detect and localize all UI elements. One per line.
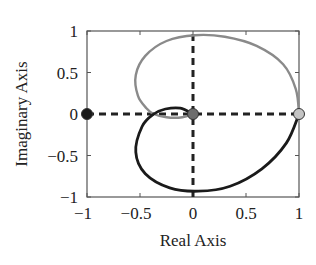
upper-locus-curve bbox=[135, 35, 299, 118]
x-tick-label: −0.5 bbox=[121, 204, 152, 223]
unit-point-marker bbox=[294, 109, 305, 120]
y-tick-label: 1 bbox=[70, 22, 79, 41]
x-tick-label: 0.5 bbox=[235, 204, 256, 223]
origin-point-marker bbox=[188, 109, 199, 120]
nyquist-chart: −1−0.500.51 10.50−0.5−1 Real Axis Imagin… bbox=[0, 0, 316, 265]
x-tick-label: 1 bbox=[295, 204, 304, 223]
y-tick-label: 0 bbox=[70, 105, 79, 124]
y-tick-label: −0.5 bbox=[47, 147, 78, 166]
y-tick-labels: 10.50−0.5−1 bbox=[47, 22, 78, 207]
y-tick-label: 0.5 bbox=[57, 64, 78, 83]
lower-locus-curve bbox=[136, 108, 299, 191]
x-axis-label: Real Axis bbox=[160, 231, 227, 250]
x-tick-labels: −1−0.500.51 bbox=[74, 204, 303, 223]
x-tick-label: 0 bbox=[189, 204, 198, 223]
y-tick-label: −1 bbox=[60, 188, 78, 207]
critical-point-marker bbox=[82, 109, 93, 120]
y-axis-label: Imaginary Axis bbox=[12, 61, 31, 166]
